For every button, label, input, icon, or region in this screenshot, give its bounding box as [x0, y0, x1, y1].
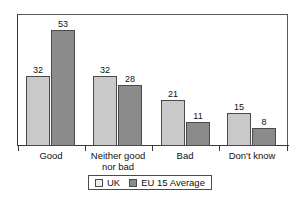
bar-group-neither-good-nor-bad: 32 28: [85, 14, 150, 146]
bar-uk-neither[interactable]: [93, 76, 117, 146]
x-axis-label-dont-know-line1: Don't know: [207, 150, 297, 161]
bars-bad: 21 11: [153, 14, 218, 146]
bar-value-uk-good: 32: [23, 65, 53, 75]
bars-neither-good-nor-bad: 32 28: [85, 14, 150, 146]
legend-swatch-uk-icon: [95, 179, 103, 187]
bar-eu-dont-know[interactable]: [252, 128, 276, 146]
bar-uk-dont-know[interactable]: [227, 113, 251, 146]
legend-label-eu-15-average: EU 15 Average: [141, 178, 205, 188]
bar-value-eu-dont-know: 8: [249, 117, 279, 127]
bar-group-bad: 21 11: [153, 14, 218, 146]
legend-item-eu-15-average[interactable]: EU 15 Average: [129, 178, 205, 188]
bar-eu-good[interactable]: [51, 30, 75, 146]
chart-legend: UK EU 15 Average: [88, 175, 212, 190]
bars-good: 32 53: [18, 14, 83, 146]
bar-value-eu-neither: 28: [115, 74, 145, 84]
legend-item-uk[interactable]: UK: [95, 178, 120, 188]
bar-value-eu-bad: 11: [183, 111, 213, 121]
bar-chart: 32 53 32 28 21 11: [0, 0, 303, 203]
bar-group-good: 32 53: [18, 14, 83, 146]
bar-eu-neither[interactable]: [118, 85, 142, 146]
x-axis-label-dont-know: Don't know: [207, 150, 297, 161]
bars-dont-know: 15 8: [219, 14, 284, 146]
bar-group-dont-know: 15 8: [219, 14, 284, 146]
bar-eu-bad[interactable]: [186, 122, 210, 146]
legend-swatch-eu-icon: [129, 179, 137, 187]
bar-value-eu-good: 53: [48, 19, 78, 29]
legend-label-uk: UK: [107, 178, 120, 188]
bar-value-uk-dont-know: 15: [224, 102, 254, 112]
x-axis-label-neither-line2: nor bad: [73, 161, 163, 172]
bar-groups: 32 53 32 28 21 11: [18, 14, 288, 146]
bar-value-uk-bad: 21: [158, 89, 188, 99]
bar-uk-bad[interactable]: [161, 100, 185, 146]
bar-uk-good[interactable]: [26, 76, 50, 146]
